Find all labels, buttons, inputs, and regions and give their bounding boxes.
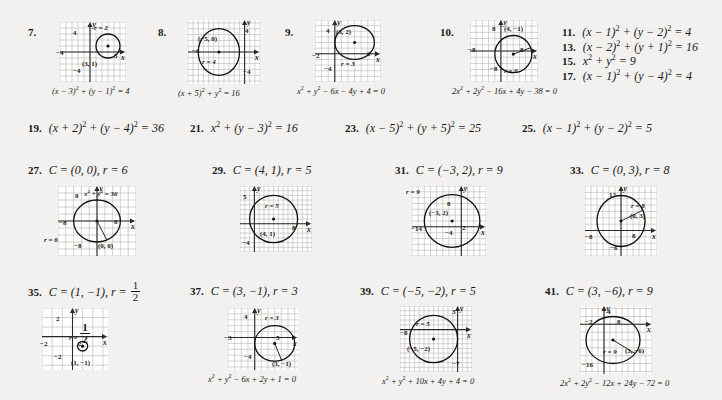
- item-number: 37.: [190, 285, 204, 297]
- circle-graph: [400, 306, 472, 372]
- graph-annotation: −2: [40, 340, 48, 348]
- graph-annotation: −6: [192, 47, 200, 55]
- answer-item-21: 21. x2 + (y − 3)2 = 16: [190, 118, 298, 136]
- graph-annotation: 4: [73, 29, 77, 37]
- graph-annotation: −6: [610, 244, 618, 252]
- graph-annotation: 12: [609, 191, 616, 199]
- graph-caption: x2 + y2 + 10x + 4y + 4 = 0: [382, 375, 474, 386]
- fraction: 12: [131, 280, 141, 304]
- item-number: 23.: [345, 122, 359, 134]
- graph-annotation: 6: [367, 50, 371, 58]
- item-equation: (x + 2)2 + (y − 4)2 = 36: [46, 121, 164, 135]
- graph-annotation: x: [255, 53, 259, 62]
- item-equation: C = (4, 1), r = 5: [230, 163, 312, 177]
- graph-annotation: y: [460, 304, 463, 313]
- graph-annotation: x: [131, 222, 135, 231]
- graph-annotation: y: [257, 306, 260, 315]
- graph-annotation: 4: [326, 27, 330, 35]
- graph-annotation: x: [652, 232, 656, 241]
- item-number: 10.: [440, 26, 454, 38]
- graph-annotation: 5: [243, 193, 247, 201]
- graph-annotation: −8: [74, 242, 82, 250]
- graph-annotation: x: [533, 52, 537, 61]
- item-equation: C = (3, −6), r = 9: [563, 284, 653, 298]
- item-number: 41.: [545, 285, 559, 297]
- item-number: 27.: [28, 164, 42, 176]
- graph-annotation: y: [624, 184, 627, 193]
- item-number: 9.: [285, 26, 293, 38]
- graph-annotation: r = 8: [631, 202, 645, 210]
- circle-graph: [585, 186, 657, 256]
- graph-annotation: r = 2: [94, 24, 108, 32]
- graph-annotation: (4, −1): [504, 25, 523, 33]
- answer-item-23: 23. (x − 5)2 + (y + 5)2 = 25: [345, 118, 481, 136]
- graph-annotation: y: [247, 18, 250, 27]
- item-equation: C = (−3, 2), r = 9: [413, 163, 503, 177]
- graph-annotation: −2: [312, 52, 320, 60]
- graph-annotation: y: [257, 184, 260, 193]
- graph-annotation: r = 6: [44, 236, 58, 244]
- graph-annotation: y: [337, 18, 340, 27]
- graph-annotation: −4: [445, 229, 453, 237]
- answer-item-25: 25. (x − 1)2 + (y − 2)2 = 5: [522, 118, 652, 136]
- graph-caption: (x − 3)2 + (y − 1)2 = 4: [52, 85, 130, 96]
- graph-annotation: −7: [452, 360, 460, 368]
- graph-annotation: 4: [607, 308, 611, 316]
- graph-annotation: 3: [452, 308, 456, 316]
- graph-annotation: x2 + y2 = 36: [84, 189, 118, 198]
- graph-annotation: (−3, 2): [429, 209, 448, 217]
- graph-annotation: (−5, 0): [198, 35, 217, 43]
- graph-annotation: −4: [242, 239, 250, 247]
- graph-annotation: −4: [56, 49, 64, 57]
- graph-annotation: r = 9: [406, 188, 420, 196]
- graph-caption: x2 + y2 − 6x + 2y + 1 = 0: [208, 373, 296, 384]
- answer-item-10: 10.: [440, 22, 458, 40]
- graph-annotation: r = 3: [341, 60, 355, 68]
- graph-annotation: y: [75, 306, 78, 315]
- graph-annotation: −16: [582, 361, 593, 369]
- graph-annotation: −14: [411, 225, 422, 233]
- graph-annotation: −8: [490, 65, 498, 73]
- graph-annotation: 2: [56, 315, 60, 323]
- graph-annotation: 8: [114, 218, 118, 226]
- item-number: 35.: [28, 286, 42, 298]
- graph-annotation: 4: [244, 313, 248, 321]
- item-number: 39.: [360, 285, 374, 297]
- graph-annotation: 8: [75, 192, 79, 200]
- graph-annotation: (0, 0): [98, 242, 113, 250]
- answer-item-31: 31. C = (−3, 2), r = 9: [395, 160, 503, 178]
- answer-item-35: 35. C = (1, −1), r = 12: [28, 280, 141, 304]
- graph-annotation: r = 5: [265, 202, 279, 210]
- item-equation: C = (0, 3), r = 8: [588, 163, 670, 177]
- item-number: 21.: [190, 122, 204, 134]
- graph-annotation: 8: [447, 200, 451, 208]
- graph-annotation: 8: [492, 25, 496, 33]
- graph-annotation: (−5, −2): [407, 345, 430, 353]
- item-equation: (x − 5)2 + (y + 5)2 = 25: [363, 121, 481, 135]
- graph-annotation: 8: [632, 232, 636, 240]
- graph-annotation: −4: [244, 353, 252, 361]
- circle-graph: [412, 186, 486, 256]
- graph-caption: 2x2 + 2y2 − 12x + 24y − 72 = 0: [560, 377, 669, 388]
- graph-annotation: r = 5: [416, 320, 430, 328]
- graph-annotation: r = 3: [265, 314, 279, 322]
- graph-annotation: −8: [59, 219, 67, 227]
- graph-annotation: −8: [585, 233, 593, 241]
- graph-annotation: x: [293, 339, 297, 348]
- item-number: 31.: [395, 164, 409, 176]
- graph-annotation: r = 6: [504, 67, 518, 75]
- item-number: 8.: [158, 26, 166, 38]
- item-equation: x2 + (y − 3)2 = 16: [208, 121, 298, 135]
- graph-caption: 2x2 + 2y2 − 16x + 4y − 38 = 0: [452, 85, 557, 96]
- item-equation: C = (1, −1), r = 12: [46, 285, 141, 299]
- graph-annotation: x: [481, 228, 485, 237]
- item-equation: C = (0, 0), r = 6: [46, 163, 128, 177]
- graph-annotation: (1, −1): [71, 359, 90, 367]
- graph-annotation: x: [647, 325, 651, 334]
- graph-annotation: −2: [585, 318, 593, 326]
- item-equation: C = (−5, −2), r = 5: [378, 284, 476, 298]
- graph-annotation: −4: [73, 67, 81, 75]
- circle-graph: [240, 186, 312, 252]
- graph-annotation: (3, 1): [82, 60, 97, 68]
- answer-item-8: 8.: [158, 22, 170, 40]
